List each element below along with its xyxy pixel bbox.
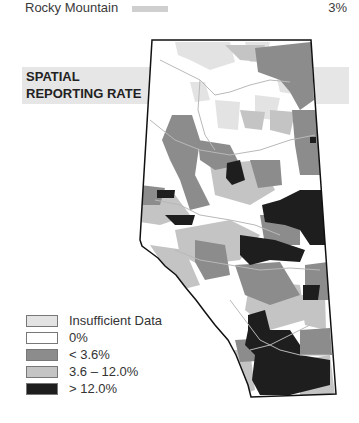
legend-label: > 12.0%	[69, 381, 117, 396]
map-title: SPATIAL REPORTING RATE	[26, 68, 141, 102]
legend-label: Insufficient Data	[69, 313, 162, 328]
map-title-line2: REPORTING RATE	[26, 85, 141, 102]
legend-label: < 3.6%	[69, 347, 110, 362]
legend-label: 3.6 – 12.0%	[69, 364, 138, 379]
legend-label: 0%	[69, 330, 88, 345]
map-regions	[130, 35, 345, 405]
legend-swatch	[26, 383, 58, 395]
map-title-line1: SPATIAL	[26, 68, 141, 85]
legend-swatch	[26, 332, 58, 344]
legend-swatch	[26, 366, 58, 378]
legend-swatch	[26, 349, 58, 361]
legend-swatch	[26, 315, 58, 327]
